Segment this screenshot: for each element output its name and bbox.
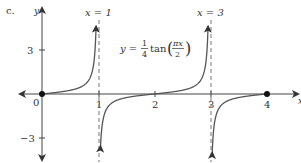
part-label: c. bbox=[6, 5, 15, 16]
equation-arg-den: 2 bbox=[175, 50, 180, 59]
equation-lhs: y = bbox=[119, 43, 137, 54]
equation-label: y = 1 4 tan ( πx 2 ) bbox=[119, 39, 191, 59]
curve-branch-3-to-4 bbox=[212, 94, 266, 153]
tick-label-y-3: 3 bbox=[27, 45, 33, 56]
asymptote-label-x-3: x = 3 bbox=[197, 7, 224, 18]
equation-arg-num: πx bbox=[172, 39, 183, 48]
point-origin bbox=[39, 91, 45, 97]
point-x-4 bbox=[264, 91, 270, 97]
tick-label-x-0: 0 bbox=[33, 97, 39, 108]
equation-func: tan bbox=[150, 43, 167, 54]
tick-label-x-4: 4 bbox=[264, 99, 270, 110]
equation-frac-den: 4 bbox=[142, 50, 147, 59]
x-axis-label: x bbox=[298, 96, 301, 106]
y-axis-label: y bbox=[33, 6, 40, 16]
equation-frac-num: 1 bbox=[142, 39, 147, 48]
asymptote-label-x-1: x = 1 bbox=[85, 7, 112, 18]
tick-label-x-2: 2 bbox=[152, 99, 158, 110]
graph: c. x y 3 −3 0 1 2 3 4 x = 1 x = 3 y = 1 … bbox=[0, 0, 301, 163]
curve-branch-0-to-1 bbox=[42, 27, 96, 94]
equation-paren-right: ) bbox=[185, 39, 191, 58]
tick-label-y-neg3: −3 bbox=[20, 133, 35, 144]
